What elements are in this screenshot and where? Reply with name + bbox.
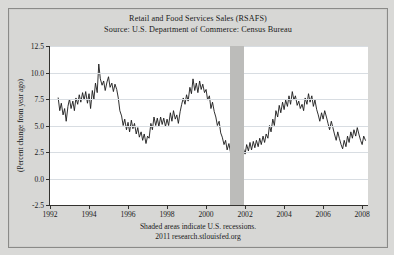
gridline <box>50 152 368 153</box>
y-axis-tick <box>46 126 50 127</box>
y-axis-label: 2.5 <box>35 148 45 157</box>
x-axis-label: 1994 <box>81 210 96 219</box>
x-axis-label: 1996 <box>120 210 135 219</box>
x-axis-label: 1998 <box>159 210 174 219</box>
x-axis-label: 1992 <box>42 210 57 219</box>
gridline <box>50 73 368 74</box>
x-axis-tick <box>362 205 363 209</box>
y-axis-label: 10.0 <box>31 68 44 77</box>
x-axis-tick <box>89 205 90 209</box>
chart-footer: Shaded areas indicate U.S. recessions. 2… <box>9 222 387 241</box>
y-axis-tick <box>46 152 50 153</box>
x-axis-label: 2004 <box>277 210 292 219</box>
y-axis-tick <box>46 179 50 180</box>
x-axis-tick <box>167 205 168 209</box>
plot-area: 12.510.07.55.02.50.0-2.5 199219941996199… <box>49 46 368 206</box>
chart-source: Source: U.S. Department of Commerce: Cen… <box>9 24 387 35</box>
page-title: Retail and Food Services Sales (RSAFS) <box>9 13 387 24</box>
chart-page: Retail and Food Services Sales (RSAFS) S… <box>0 0 394 255</box>
footer-attribution: 2011 research.stlouisfed.org <box>9 232 387 242</box>
y-axis-title: (Percent change from year ago) <box>15 46 27 205</box>
x-axis-tick <box>245 205 246 209</box>
y-axis-label: 7.5 <box>35 95 45 104</box>
y-axis-label: 0.0 <box>35 174 45 183</box>
y-axis-tick <box>46 46 50 47</box>
y-axis-label: -2.5 <box>32 201 44 210</box>
footer-recession-note: Shaded areas indicate U.S. recessions. <box>9 222 387 232</box>
x-axis-label: 2006 <box>316 210 331 219</box>
gridline <box>50 99 368 100</box>
y-axis-title-label: (Percent change from year ago) <box>17 79 26 172</box>
x-axis-tick <box>284 205 285 209</box>
x-axis-label: 2008 <box>355 210 370 219</box>
y-axis-tick <box>46 73 50 74</box>
x-axis-tick <box>323 205 324 209</box>
x-axis-tick <box>50 205 51 209</box>
chart-frame: Retail and Food Services Sales (RSAFS) S… <box>8 8 388 248</box>
gridline <box>50 179 368 180</box>
chart-title-block: Retail and Food Services Sales (RSAFS) S… <box>9 13 387 35</box>
x-axis-label: 2002 <box>237 210 252 219</box>
x-axis-label: 2000 <box>198 210 213 219</box>
y-axis-label: 12.5 <box>31 42 44 51</box>
x-axis-tick <box>128 205 129 209</box>
x-axis-tick <box>206 205 207 209</box>
y-axis-label: 5.0 <box>35 121 45 130</box>
gridline <box>50 126 368 127</box>
gridline <box>50 46 368 47</box>
y-axis-tick <box>46 99 50 100</box>
recession-band <box>230 46 243 205</box>
